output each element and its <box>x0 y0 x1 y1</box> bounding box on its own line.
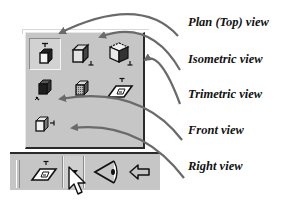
trimetric-view-icon <box>33 76 57 102</box>
isometric-view-icon <box>69 41 95 67</box>
view-toolbar-panel <box>25 32 145 149</box>
plane-view-icon <box>29 160 59 184</box>
plane-view-button[interactable] <box>24 156 64 188</box>
callout-trimetric <box>145 58 180 104</box>
toolbar-grip[interactable] <box>16 160 20 188</box>
back-button[interactable] <box>124 156 156 188</box>
label-plan-top-view: Plan (Top) view <box>188 15 269 30</box>
label-front-view: Front view <box>188 123 244 138</box>
trimetric-view-button[interactable] <box>29 73 61 105</box>
mouse-pointer-icon <box>68 166 90 196</box>
right-view-icon <box>32 112 58 136</box>
perspective-eye-icon <box>90 158 120 186</box>
plan-top-view-icon <box>34 42 56 66</box>
label-right-view: Right view <box>188 159 243 174</box>
top-plane-button[interactable] <box>104 73 136 105</box>
isometric-hidden-view-icon <box>106 41 134 67</box>
isometric-hidden-view-button[interactable] <box>104 38 136 70</box>
perspective-button[interactable] <box>88 156 122 188</box>
top-plane-icon <box>105 77 135 101</box>
shaded-cube-button[interactable] <box>66 73 98 105</box>
toolbar-separator <box>62 156 64 188</box>
label-isometric-view: Isometric view <box>188 52 263 67</box>
isometric-view-button[interactable] <box>66 38 98 70</box>
back-arrow-icon <box>128 162 152 182</box>
plan-top-view-button[interactable] <box>29 38 61 70</box>
right-view-button[interactable] <box>29 108 61 140</box>
label-trimetric-view: Trimetric view <box>188 87 262 102</box>
shaded-cube-icon <box>70 77 94 101</box>
